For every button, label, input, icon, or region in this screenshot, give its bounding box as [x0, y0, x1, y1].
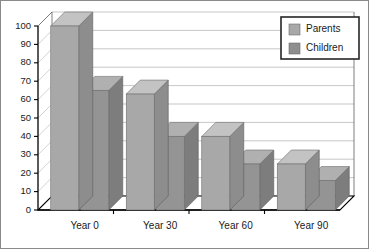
x-category-label: Year 30 — [143, 220, 178, 231]
bar-3d — [126, 80, 168, 210]
legend-swatch — [289, 43, 300, 54]
y-tick-label: 10 — [20, 185, 31, 196]
y-tick-label: 30 — [20, 148, 31, 159]
x-axis-category-labels: Year 0Year 30Year 60Year 90 — [70, 210, 328, 231]
y-tick-label: 50 — [20, 112, 31, 123]
chart-legend: ParentsChildren — [281, 17, 359, 59]
y-tick-label: 100 — [15, 20, 31, 31]
y-axis-tick-labels: 0102030405060708090100 — [15, 20, 31, 215]
y-tick-label: 40 — [20, 130, 31, 141]
chart-canvas: 0102030405060708090100 Year 0Year 30Year… — [0, 0, 369, 249]
x-category-label: Year 60 — [219, 220, 254, 231]
legend-label: Children — [306, 42, 343, 53]
bar-3d — [51, 12, 93, 210]
y-tick-label: 0 — [26, 204, 31, 215]
bar-3d — [202, 122, 244, 210]
x-category-label: Year 0 — [70, 220, 99, 231]
x-category-label: Year 90 — [294, 220, 329, 231]
y-tick-label: 20 — [20, 167, 31, 178]
y-tick-label: 70 — [20, 75, 31, 86]
y-tick-label: 60 — [20, 93, 31, 104]
legend-label: Parents — [306, 23, 340, 34]
bar-3d — [277, 150, 319, 210]
legend-swatch — [289, 24, 300, 35]
bar-chart-3d: 0102030405060708090100 Year 0Year 30Year… — [0, 0, 369, 249]
y-tick-label: 80 — [20, 56, 31, 67]
y-tick-label: 90 — [20, 38, 31, 49]
